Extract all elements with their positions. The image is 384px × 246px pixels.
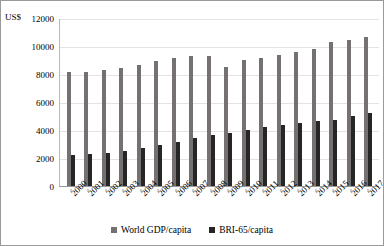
bar-group-2006: [167, 19, 185, 187]
y-axis-tick-labels: 120001000080006000400020000: [1, 1, 59, 205]
chart-legend: World GDP/capitaBRI-65/capita: [1, 225, 383, 235]
y-axis-tick-6000: 6000: [36, 98, 54, 108]
bar-group-2001: [80, 19, 98, 187]
x-axis-tick-cell-2014: 2014: [307, 189, 325, 223]
legend-label: BRI-65/capita: [219, 225, 273, 235]
bar-group-2005: [150, 19, 168, 187]
x-axis-tick-cell-2015: 2015: [325, 189, 343, 223]
x-axis-tick-cell-2001: 2001: [80, 189, 98, 223]
bar-group-2013: [290, 19, 308, 187]
x-axis-tick-cell-2008: 2008: [202, 189, 220, 223]
bar-group-2012: [272, 19, 290, 187]
bar-group-2011: [255, 19, 273, 187]
bar-group-2014: [307, 19, 325, 187]
y-axis-tick-12000: 12000: [32, 14, 55, 24]
bar-bri65-2007: [193, 138, 197, 187]
bar-bri65-2000: [71, 155, 75, 187]
y-axis-tick-2000: 2000: [36, 154, 54, 164]
bar-bri65-2010: [246, 130, 250, 187]
legend-item-world-gdp: World GDP/capita: [111, 225, 191, 235]
bar-bri65-2006: [176, 142, 180, 187]
legend-item-bri65: BRI-65/capita: [209, 225, 273, 235]
bar-group-2007: [185, 19, 203, 187]
bar-group-2003: [115, 19, 133, 187]
bar-bri65-2002: [106, 153, 110, 187]
bar-bri65-2016: [351, 116, 355, 187]
bar-chart: US$ 120001000080006000400020000 20002001…: [0, 0, 384, 246]
bar-group-2010: [237, 19, 255, 187]
x-axis-tick-cell-2002: 2002: [97, 189, 115, 223]
bar-bri65-2009: [228, 133, 232, 187]
bar-bri65-2011: [263, 127, 267, 187]
x-axis-tick-cell-2006: 2006: [167, 189, 185, 223]
x-axis-tick-cell-2012: 2012: [272, 189, 290, 223]
x-axis-tick-cell-2009: 2009: [220, 189, 238, 223]
plot-area: [59, 19, 379, 187]
x-axis-tick-cell-2016: 2016: [342, 189, 360, 223]
y-axis-tick-4000: 4000: [36, 126, 54, 136]
bar-bri65-2004: [141, 148, 145, 187]
bar-bri65-2015: [333, 120, 337, 187]
bar-group-2016: [342, 19, 360, 187]
bar-bri65-2008: [211, 135, 215, 187]
bar-bri65-2005: [158, 145, 162, 187]
x-axis-tick-cell-2013: 2013: [290, 189, 308, 223]
x-axis-tick-cell-2004: 2004: [132, 189, 150, 223]
square-marker: [111, 227, 117, 233]
bar-group-2009: [220, 19, 238, 187]
x-axis-tick-cell-2010: 2010: [237, 189, 255, 223]
square-marker: [209, 227, 215, 233]
bar-bri65-2001: [88, 154, 92, 187]
bar-bri65-2013: [298, 123, 302, 187]
bar-group-2008: [202, 19, 220, 187]
x-axis-tick-cell-2011: 2011: [255, 189, 273, 223]
bar-group-2015: [325, 19, 343, 187]
bar-bri65-2003: [123, 151, 127, 187]
bar-groups: [59, 19, 379, 187]
bar-bri65-2012: [281, 125, 285, 187]
bar-group-2000: [62, 19, 80, 187]
legend-label: World GDP/capita: [121, 225, 191, 235]
x-axis-tick-labels: 2000200120022003200420052006200720082009…: [59, 189, 379, 223]
x-axis-tick-cell-2017: 2017: [360, 189, 378, 223]
bar-bri65-2017: [368, 113, 372, 187]
x-axis-tick-cell-2003: 2003: [115, 189, 133, 223]
bar-group-2017: [360, 19, 378, 187]
bar-group-2002: [97, 19, 115, 187]
x-axis-tick-cell-2005: 2005: [150, 189, 168, 223]
y-axis-tick-0: 0: [50, 182, 55, 192]
y-axis-tick-8000: 8000: [36, 70, 54, 80]
bar-bri65-2014: [316, 121, 320, 188]
bar-group-2004: [132, 19, 150, 187]
x-axis-tick-cell-2000: 2000: [62, 189, 80, 223]
y-axis-tick-10000: 10000: [32, 42, 55, 52]
x-axis-tick-cell-2007: 2007: [185, 189, 203, 223]
